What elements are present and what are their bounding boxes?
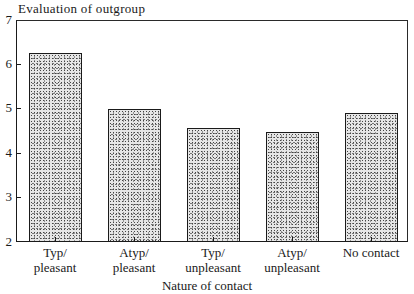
bar-atyp-pleasant <box>108 109 161 242</box>
y-tick <box>16 64 21 65</box>
x-tick-label: Atyp/ unpleasant <box>252 245 332 275</box>
y-tick-label: 3 <box>2 190 12 204</box>
x-axis-title: Nature of contact <box>0 278 414 294</box>
x-tick <box>55 237 56 241</box>
y-tick <box>16 153 21 154</box>
x-tick <box>213 237 214 241</box>
x-tick <box>292 237 293 241</box>
y-tick <box>16 108 21 109</box>
x-tick <box>134 237 135 241</box>
y-tick-label: 2 <box>2 235 12 249</box>
x-tick-label: No contact <box>331 245 411 260</box>
x-tick-label: Typ/ pleasant <box>15 245 95 275</box>
bar-typ-pleasant <box>29 53 82 242</box>
y-tick <box>16 197 21 198</box>
bar-no-contact <box>345 113 398 242</box>
bar-atyp-unpleasant <box>266 132 319 242</box>
y-tick-label: 7 <box>2 13 12 27</box>
y-tick-label: 5 <box>2 101 12 115</box>
y-axis-title: Evaluation of outgroup <box>18 1 145 17</box>
bar-typ-unpleasant <box>187 128 240 242</box>
x-tick <box>371 237 372 241</box>
y-tick-label: 4 <box>2 146 12 160</box>
x-tick-label: Atyp/ pleasant <box>94 245 174 275</box>
y-tick-label: 6 <box>2 57 12 71</box>
x-tick-label: Typ/ unpleasant <box>173 245 253 275</box>
